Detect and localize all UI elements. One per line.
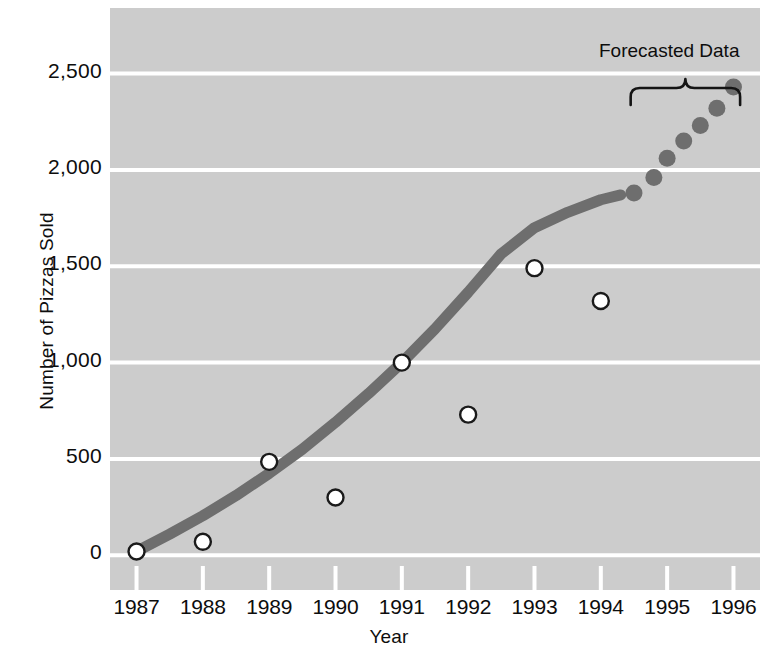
forecast-data-point xyxy=(645,169,662,186)
forecast-data-point xyxy=(625,185,642,202)
forecast-data-point xyxy=(692,117,709,134)
x-axis-title: Year xyxy=(0,626,778,648)
forecast-data-point xyxy=(708,100,725,117)
observed-data-point xyxy=(526,260,542,276)
x-axis-tick-label: 1990 xyxy=(300,595,372,619)
x-axis-tick-label: 1992 xyxy=(432,595,504,619)
observed-data-point xyxy=(129,543,145,559)
observed-data-point xyxy=(460,407,476,423)
y-axis-tick-label: 0 xyxy=(6,540,102,564)
x-axis-tick-label: 1993 xyxy=(498,595,570,619)
y-axis-tick-label: 2,000 xyxy=(6,155,102,179)
observed-data-point xyxy=(394,355,410,371)
x-axis-tick-label: 1994 xyxy=(565,595,637,619)
plot-background xyxy=(110,8,760,590)
forecast-data-point xyxy=(659,150,676,167)
pizza-sales-chart: 05001,0001,5002,0002,500 198719881989199… xyxy=(0,0,778,669)
y-axis-tick-label: 500 xyxy=(6,444,102,468)
forecast-annotation-label: Forecasted Data xyxy=(599,40,739,62)
x-axis-tick-label: 1989 xyxy=(233,595,305,619)
x-axis-tick-label: 1996 xyxy=(697,595,769,619)
observed-data-point xyxy=(593,293,609,309)
y-axis-tick-label: 2,500 xyxy=(6,59,102,83)
observed-data-point xyxy=(195,534,211,550)
x-axis-tick-label: 1987 xyxy=(101,595,173,619)
x-axis-tick-label: 1988 xyxy=(167,595,239,619)
plot-canvas xyxy=(0,0,778,669)
x-axis-tick-label: 1991 xyxy=(366,595,438,619)
forecast-data-point xyxy=(675,132,692,149)
observed-data-point xyxy=(261,454,277,470)
x-axis-tick-label: 1995 xyxy=(631,595,703,619)
observed-data-point xyxy=(328,489,344,505)
y-axis-title: Number of Pizzas Sold xyxy=(36,186,58,436)
